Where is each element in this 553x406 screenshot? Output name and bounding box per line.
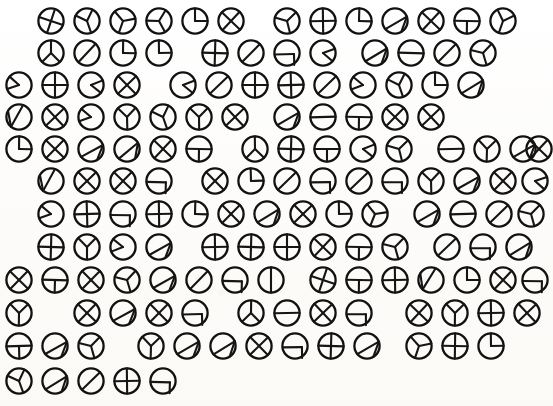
symbol-chord-arc [40,366,70,396]
symbol-plus [476,298,506,328]
symbol-tri-spoke [404,331,434,361]
symbol-l-corner [280,331,310,361]
symbol-pie-slice [520,166,550,196]
symbol-cross [524,134,553,164]
symbol-y-spoke [112,102,142,132]
symbol-chord-arc [252,199,282,229]
symbol-quarter [4,134,34,164]
symbol-y-spoke [416,166,446,196]
symbol-horizontal-half [272,298,302,328]
symbol-row [0,166,553,199]
symbol-pie-slice [4,70,34,100]
symbol-pie-slice [108,232,138,262]
symbol-y-spoke [148,102,178,132]
symbol-y-spoke [184,102,214,132]
symbol-chord-arc [148,265,178,295]
symbol-quarter [236,166,266,196]
symbol-t-bar [4,331,34,361]
symbol-y-spoke [472,134,502,164]
symbol-tri-spoke [112,265,142,295]
symbol-cross [220,102,250,132]
symbol-diagonal-half [344,166,374,196]
symbol-plus [308,6,338,36]
symbol-pie-slice [348,134,378,164]
symbol-cross [76,265,106,295]
symbol-t-bar [344,265,374,295]
symbol-row [0,6,553,39]
symbol-plus [308,265,338,295]
symbol-cross [216,199,246,229]
symbol-tri-spoke [76,331,106,361]
symbol-chord-arc [144,232,174,262]
symbol-chord-arc [208,331,238,361]
symbol-diagonal-half [432,38,462,68]
symbol-tri-spoke [380,232,410,262]
symbol-quarter [144,38,174,68]
symbol-y-spoke [4,298,34,328]
symbol-plus [380,265,410,295]
symbol-l-corner [144,166,174,196]
symbol-y-spoke [72,232,102,262]
symbol-chord-arc [456,70,486,100]
symbol-cross [404,298,434,328]
symbol-chord-arc [36,166,66,196]
symbol-horizontal-half [448,199,478,229]
symbol-row [0,134,553,167]
symbol-cross [216,6,246,36]
symbol-tri-spoke [516,199,546,229]
symbol-quarter [324,199,354,229]
symbol-plus [240,70,270,100]
symbol-cross [308,232,338,262]
symbol-diagonal-half [484,199,514,229]
symbol-y-spoke [136,331,166,361]
symbol-y-spoke [440,298,470,328]
symbol-diagonal-half [76,366,106,396]
symbol-plus [272,232,302,262]
symbol-sheet [0,0,553,406]
symbol-vertical-half [256,265,286,295]
symbol-chord-arc [380,6,410,36]
symbol-row [0,331,553,364]
symbol-diagonal-half [184,265,214,295]
symbol-y-spoke [4,366,34,396]
symbol-tri-spoke [272,6,302,36]
symbol-chord-arc [352,331,382,361]
symbol-horizontal-half [396,38,426,68]
symbol-plus [72,199,102,229]
symbol-diagonal-half [72,38,102,68]
symbol-plus [36,232,66,262]
symbol-chord-arc [112,134,142,164]
symbol-quarter [476,331,506,361]
symbol-chord-arc [360,38,390,68]
symbol-plus [236,232,266,262]
symbol-t-bar [40,265,70,295]
symbol-pie-slice [36,199,66,229]
symbol-row [0,366,553,399]
symbol-t-bar [344,232,374,262]
symbol-cross [148,134,178,164]
symbol-plus [40,70,70,100]
symbol-cross [416,6,446,36]
symbol-l-corner [468,232,498,262]
symbol-plus [112,366,142,396]
symbol-pie-slice [348,70,378,100]
symbol-quarter [452,265,482,295]
symbol-y-spoke [488,6,518,36]
symbol-l-corner [148,366,178,396]
symbol-l-corner [344,298,374,328]
symbol-l-corner [272,38,302,68]
symbol-cross [244,331,274,361]
symbol-tri-spoke [468,38,498,68]
symbol-l-corner [220,265,250,295]
symbol-cross [308,298,338,328]
symbol-cross [40,102,70,132]
symbol-plus [36,6,66,36]
symbol-chord-arc [108,298,138,328]
symbol-l-corner [308,166,338,196]
symbol-plus [144,199,174,229]
symbol-plus [316,331,346,361]
symbol-plus [440,331,470,361]
symbol-cross [4,265,34,295]
symbol-plus [276,134,306,164]
symbol-l-corner [108,199,138,229]
